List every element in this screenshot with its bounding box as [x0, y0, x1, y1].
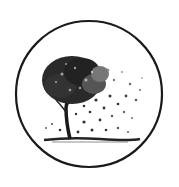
ground-line [44, 138, 140, 140]
tree-canopy [42, 56, 109, 104]
tree-circle-icon [0, 0, 179, 187]
tree-logo: Tree inside circle emblem [0, 0, 179, 187]
